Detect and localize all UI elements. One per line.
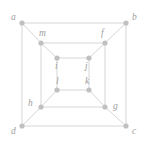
graph-vertex-i[interactable] bbox=[54, 55, 59, 60]
vertex-label-i: i bbox=[55, 62, 58, 72]
graph-vertex-a[interactable] bbox=[19, 20, 24, 25]
graph-vertex-j[interactable] bbox=[86, 55, 91, 60]
graph-svg bbox=[0, 0, 146, 144]
vertex-label-m: m bbox=[39, 29, 46, 39]
edge-layer bbox=[22, 23, 126, 126]
graph-vertex-b[interactable] bbox=[123, 20, 128, 25]
vertex-label-c: c bbox=[132, 127, 136, 137]
vertex-label-f: f bbox=[101, 29, 104, 39]
vertex-label-h: h bbox=[28, 99, 33, 109]
graph-edge-f-j bbox=[89, 43, 105, 58]
vertex-label-d: d bbox=[11, 127, 16, 137]
vertex-label-b: b bbox=[132, 13, 137, 23]
graph-edge-b-f bbox=[105, 23, 126, 43]
graph-edge-h-l bbox=[41, 90, 57, 107]
vertex-label-j: j bbox=[85, 62, 88, 72]
graph-edge-d-h bbox=[22, 107, 41, 126]
graph-vertex-d[interactable] bbox=[19, 123, 24, 128]
graph-vertex-k[interactable] bbox=[86, 87, 91, 92]
graph-vertex-f[interactable] bbox=[102, 40, 107, 45]
graph-vertex-g[interactable] bbox=[102, 104, 107, 109]
vertex-label-k: k bbox=[85, 77, 89, 87]
graph-edge-g-k bbox=[89, 90, 105, 107]
vertex-label-g: g bbox=[113, 102, 118, 112]
vertex-label-a: a bbox=[11, 13, 16, 23]
graph-vertex-m[interactable] bbox=[38, 40, 43, 45]
graph-vertex-h[interactable] bbox=[38, 104, 43, 109]
graph-edge-m-i bbox=[41, 43, 57, 58]
graph-vertex-c[interactable] bbox=[123, 123, 128, 128]
vertex-label-l: l bbox=[56, 77, 59, 87]
graph-diagram-canvas: abcdmfghijkl bbox=[0, 0, 146, 144]
graph-vertex-l[interactable] bbox=[54, 87, 59, 92]
